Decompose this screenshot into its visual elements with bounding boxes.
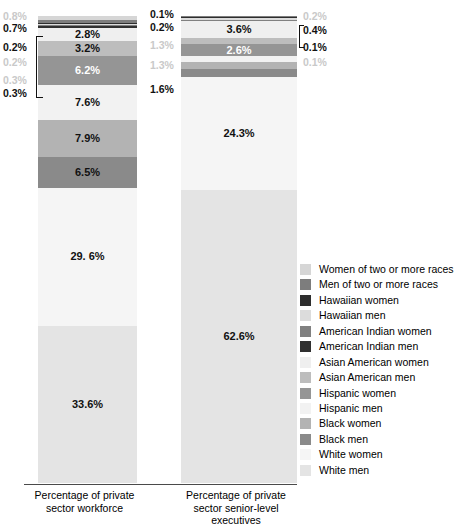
- legend-item-black-women[interactable]: Black women: [300, 416, 447, 431]
- bar-segment-asian-american-women[interactable]: 2.8%: [38, 28, 137, 41]
- bar-segment-black-women[interactable]: 7.9%: [38, 120, 137, 157]
- legend-item-asian-american-women[interactable]: Asian American women: [300, 355, 447, 370]
- legend-swatch-icon: [300, 434, 311, 445]
- bar-segment-hispanic-women[interactable]: 2.6%: [181, 44, 297, 56]
- bar-segment-black-women[interactable]: [181, 62, 297, 69]
- bar-segment-hispanic-men[interactable]: 7.6%: [38, 85, 137, 121]
- bar-segment-black-men[interactable]: [181, 69, 297, 76]
- bar-segment-asian-american-women[interactable]: 3.6%: [181, 21, 297, 38]
- callout-bar2-men-two-or-more: 0.2%: [150, 22, 174, 33]
- legend-label: White women: [319, 448, 383, 460]
- legend-swatch-icon: [300, 326, 311, 337]
- callout-bar1-hawaiian-men: 0.2%: [3, 57, 27, 68]
- legend-label: American Indian women: [319, 325, 432, 337]
- axis-label-bar1: Percentage of private sector workforce: [22, 489, 147, 514]
- legend-label: Men of two or more races: [319, 278, 438, 290]
- callout-bar2-hispanic-men: 1.3%: [150, 60, 174, 71]
- legend-swatch-icon: [300, 465, 311, 476]
- legend-item-hispanic-men[interactable]: Hispanic men: [300, 401, 447, 416]
- callout-bar2-hawaiian-women-faint: 0.2%: [303, 11, 327, 22]
- callout-bar2-women-two-or-more: 0.1%: [150, 9, 174, 20]
- leader-line-bar2-vertical: [299, 25, 300, 48]
- legend-label: American Indian men: [319, 340, 418, 352]
- axis-label-bar2-line3: executives: [172, 514, 300, 527]
- callout-bar1-hawaiian-women: 0.2%: [3, 42, 27, 53]
- callout-bar1-amind-women: 0.3%: [3, 75, 27, 86]
- legend-label: Hawaiian women: [319, 294, 399, 306]
- segment-value-label: 3.2%: [38, 43, 137, 54]
- bar-segment-black-men[interactable]: 6.5%: [38, 157, 137, 187]
- callout-bar2-asian-men-faint: 1.3%: [150, 40, 174, 51]
- legend-swatch-icon: [300, 449, 311, 460]
- bar-segment-white-women[interactable]: 24.3%: [181, 77, 297, 191]
- legend-label: Black women: [319, 417, 381, 429]
- axis-label-bar2-line1: Percentage of private: [172, 489, 300, 502]
- segment-value-label: 2.6%: [181, 45, 297, 56]
- legend-label: Asian American men: [319, 371, 415, 383]
- bar-segment-asian-american-men[interactable]: 3.2%: [38, 41, 137, 56]
- axis-baseline: [24, 484, 297, 485]
- legend-item-women-of-two-or-more-races[interactable]: Women of two or more races: [300, 262, 447, 277]
- legend-item-asian-american-men[interactable]: Asian American men: [300, 370, 447, 385]
- segment-value-label: 2.8%: [38, 29, 137, 40]
- bar-segment-hispanic-women[interactable]: 6.2%: [38, 56, 137, 85]
- legend-item-white-men[interactable]: White men: [300, 463, 447, 478]
- segment-value-label: 62.6%: [181, 331, 297, 342]
- legend-item-american-indian-men[interactable]: American Indian men: [300, 339, 447, 354]
- legend-swatch-icon: [300, 264, 311, 275]
- segment-value-label: 29. 6%: [38, 251, 137, 262]
- legend-swatch-icon: [300, 388, 311, 399]
- stacked-bar-senior-executives[interactable]: 3.6%2.6%24.3%62.6%: [181, 16, 297, 483]
- segment-value-label: 6.5%: [38, 167, 137, 178]
- legend-label: Hawaiian men: [319, 309, 386, 321]
- legend-label: White men: [319, 464, 369, 476]
- leader-line-bar1-bottom: [36, 97, 43, 98]
- segment-value-label: 33.6%: [38, 399, 137, 410]
- callout-bar1-amind-men: 0.3%: [3, 88, 27, 99]
- callout-bar1-women-two-or-more: 0.8%: [3, 11, 27, 22]
- legend-swatch-icon: [300, 372, 311, 383]
- legend-item-hawaiian-men[interactable]: Hawaiian men: [300, 308, 447, 323]
- axis-label-bar2: Percentage of private sector senior-leve…: [172, 489, 300, 527]
- legend-label: Hispanic men: [319, 402, 383, 414]
- segment-value-label: 3.6%: [181, 24, 297, 35]
- legend-swatch-icon: [300, 341, 311, 352]
- axis-label-bar1-line2: sector workforce: [22, 502, 147, 515]
- legend-item-white-women[interactable]: White women: [300, 447, 447, 462]
- legend-swatch-icon: [300, 357, 311, 368]
- leader-line-bar2-top: [299, 25, 304, 26]
- callout-bar2-black-men: 1.6%: [150, 84, 174, 95]
- callout-bar2-amind-women: 0.1%: [303, 42, 327, 53]
- legend-item-men-of-two-or-more-races[interactable]: Men of two or more races: [300, 277, 447, 292]
- leader-line-bar2-bottom: [299, 47, 304, 48]
- legend-label: Hispanic women: [319, 387, 396, 399]
- callout-bar2-amind-men: 0.1%: [303, 57, 327, 68]
- legend-item-american-indian-women[interactable]: American Indian women: [300, 324, 447, 339]
- legend-item-black-men[interactable]: Black men: [300, 432, 447, 447]
- legend-swatch-icon: [300, 295, 311, 306]
- legend: Women of two or more racesMen of two or …: [300, 262, 447, 478]
- legend-label: Asian American women: [319, 356, 429, 368]
- legend-swatch-icon: [300, 279, 311, 290]
- callout-bar2-hawaiian-men: 0.4%: [303, 25, 327, 36]
- legend-swatch-icon: [300, 310, 311, 321]
- legend-label: Women of two or more races: [319, 263, 454, 275]
- leader-line-bar1-top: [36, 36, 43, 37]
- legend-item-hispanic-women[interactable]: Hispanic women: [300, 386, 447, 401]
- bar-segment-white-women[interactable]: 29. 6%: [38, 188, 137, 326]
- leader-line-bar1-vertical: [36, 36, 37, 98]
- legend-swatch-icon: [300, 403, 311, 414]
- bar-segment-white-men[interactable]: 62.6%: [181, 190, 297, 483]
- bar-segment-white-men[interactable]: 33.6%: [38, 326, 137, 483]
- segment-value-label: 7.9%: [38, 133, 137, 144]
- legend-item-hawaiian-women[interactable]: Hawaiian women: [300, 293, 447, 308]
- segment-value-label: 7.6%: [38, 97, 137, 108]
- callout-bar1-men-two-or-more: 0.7%: [3, 23, 27, 34]
- legend-swatch-icon: [300, 418, 311, 429]
- stacked-bar-workforce[interactable]: 2.8%3.2%6.2%7.6%7.9%6.5%29. 6%33.6%: [38, 16, 137, 483]
- segment-value-label: 6.2%: [38, 65, 137, 76]
- axis-label-bar2-line2: sector senior-level: [172, 502, 300, 515]
- segment-value-label: 24.3%: [181, 128, 297, 139]
- axis-label-bar1-line1: Percentage of private: [22, 489, 147, 502]
